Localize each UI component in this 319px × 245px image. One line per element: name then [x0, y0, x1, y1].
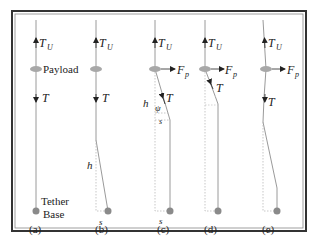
payload-force-sub: p	[294, 70, 299, 79]
payload-ellipse	[30, 66, 42, 72]
panel-caption: (d)	[204, 223, 217, 236]
tether-base-dot	[167, 208, 174, 215]
panel-caption: (b)	[95, 223, 108, 236]
height-label: h	[87, 159, 93, 171]
offset-small-label: s	[159, 117, 162, 126]
height-label: h	[143, 97, 149, 109]
payload-force-sub: p	[184, 70, 189, 79]
payload-ellipse	[149, 66, 161, 72]
panel-caption: (a)	[29, 223, 42, 236]
payload-ellipse	[90, 66, 102, 72]
tether-base-label-1: Tether	[41, 195, 69, 207]
payload-force-sub: p	[232, 70, 237, 79]
tether-base-dot	[105, 208, 112, 215]
payload-force-label: F	[176, 63, 185, 77]
payload-ellipse	[260, 66, 272, 72]
tether-base-dot	[215, 208, 222, 215]
payload-ellipse	[199, 66, 211, 72]
tether-base-dot	[33, 208, 40, 215]
payload-force-label: F	[224, 63, 233, 77]
panel-caption: (c)	[157, 223, 170, 236]
payload-label: Payload	[43, 63, 79, 75]
tether-base-dot	[274, 208, 281, 215]
tether-diagram: T U Payload T Tether Base (a) T U T h s …	[0, 0, 319, 245]
angle-label: ψ	[155, 103, 161, 113]
tether-base-label-2: Base	[43, 208, 65, 220]
tension-up-arrow	[265, 38, 266, 48]
panel-caption: (e)	[262, 223, 275, 236]
payload-force-label: F	[286, 63, 295, 77]
